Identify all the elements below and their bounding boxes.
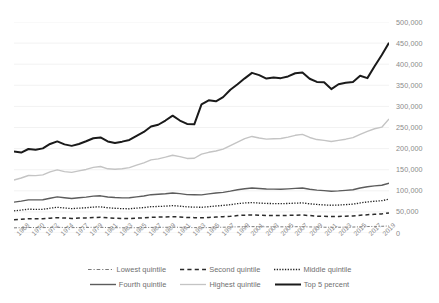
series-line-second-quintile bbox=[14, 213, 389, 220]
y-axis-tick-label: 50,000 bbox=[396, 207, 419, 216]
series-line-highest-quintile bbox=[14, 119, 389, 180]
y-axis-tick-label: 250,000 bbox=[396, 123, 423, 132]
y-axis-tick-label: 450,000 bbox=[396, 39, 423, 48]
y-axis-tick-label: 200,000 bbox=[396, 144, 423, 153]
y-axis-tick-label: 350,000 bbox=[396, 81, 423, 90]
legend-item-lowest-quintile[interactable]: Lowest quintile bbox=[88, 265, 167, 274]
y-axis-tick-label: 150,000 bbox=[396, 165, 423, 174]
legend-row-top: Lowest quintileSecond quintileMiddle qui… bbox=[0, 262, 439, 277]
series-lines bbox=[14, 43, 389, 228]
y-axis-tick-label: 500,000 bbox=[396, 18, 423, 27]
legend-swatch-second-quintile bbox=[180, 265, 206, 274]
series-line-top-5-percent bbox=[14, 43, 389, 153]
legend-label: Top 5 percent bbox=[304, 280, 349, 289]
legend-row-bottom: Fourth quintileHighest quintileTop 5 per… bbox=[0, 277, 439, 292]
legend-item-top-5-percent[interactable]: Top 5 percent bbox=[275, 280, 349, 289]
chart-legend: Lowest quintileSecond quintileMiddle qui… bbox=[0, 262, 439, 303]
legend-swatch-fourth-quintile bbox=[90, 280, 116, 289]
legend-label: Fourth quintile bbox=[119, 280, 167, 289]
plot-svg bbox=[14, 22, 389, 233]
y-axis-tick-label: 100,000 bbox=[396, 186, 423, 195]
series-line-fourth-quintile bbox=[14, 183, 389, 202]
legend-swatch-top-5-percent bbox=[275, 280, 301, 289]
legend-swatch-middle-quintile bbox=[274, 265, 300, 274]
y-axis-tick-label: 300,000 bbox=[396, 102, 423, 111]
series-line-middle-quintile bbox=[14, 199, 389, 211]
legend-label: Middle quintile bbox=[303, 265, 351, 274]
gridlines bbox=[14, 22, 389, 233]
legend-item-second-quintile[interactable]: Second quintile bbox=[180, 265, 260, 274]
income-quintile-line-chart: 050,000100,000150,000200,000250,000300,0… bbox=[0, 0, 439, 303]
legend-swatch-highest-quintile bbox=[180, 280, 206, 289]
y-axis-tick-label: 400,000 bbox=[396, 60, 423, 69]
legend-label: Second quintile bbox=[209, 265, 260, 274]
legend-item-highest-quintile[interactable]: Highest quintile bbox=[180, 280, 260, 289]
plot-area bbox=[14, 22, 389, 233]
legend-label: Lowest quintile bbox=[117, 265, 167, 274]
legend-item-fourth-quintile[interactable]: Fourth quintile bbox=[90, 280, 167, 289]
legend-swatch-lowest-quintile bbox=[88, 265, 114, 274]
legend-item-middle-quintile[interactable]: Middle quintile bbox=[274, 265, 351, 274]
legend-label: Highest quintile bbox=[209, 280, 260, 289]
x-axis-labels: 1968197019721974197719791981198319851987… bbox=[0, 232, 400, 262]
y-axis-labels: 050,000100,000150,000200,000250,000300,0… bbox=[396, 0, 439, 260]
